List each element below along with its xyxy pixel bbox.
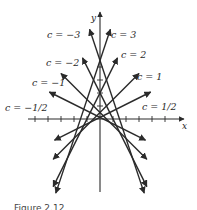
tangent-line-family-figure: y x c = −3c = 3c = −2c = 2c = −1c = 1c =… (0, 0, 197, 210)
line-label: c = −2 (46, 58, 79, 68)
line-label: c = 2 (121, 50, 146, 60)
line-label: c = −3 (47, 30, 80, 40)
figure-caption: Figure 2.12 (14, 203, 64, 210)
line-label: c = 1/2 (142, 102, 177, 112)
y-axis-label: y (91, 13, 96, 23)
line-label: c = −1/2 (5, 103, 48, 113)
x-axis-label: x (182, 121, 187, 131)
line-label: c = −1 (32, 78, 65, 88)
line-label: c = 3 (111, 30, 136, 40)
line-label: c = 1 (137, 72, 162, 82)
